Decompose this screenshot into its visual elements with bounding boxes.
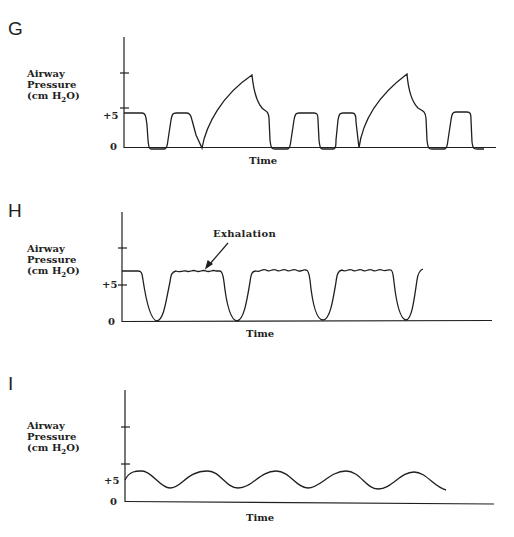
- pressure-waveform: [125, 471, 446, 490]
- plot-area: [0, 0, 514, 537]
- panel-i: I Airway Pressure (cm H2O) +5 0 Time: [0, 0, 514, 537]
- x-axis: [125, 502, 494, 505]
